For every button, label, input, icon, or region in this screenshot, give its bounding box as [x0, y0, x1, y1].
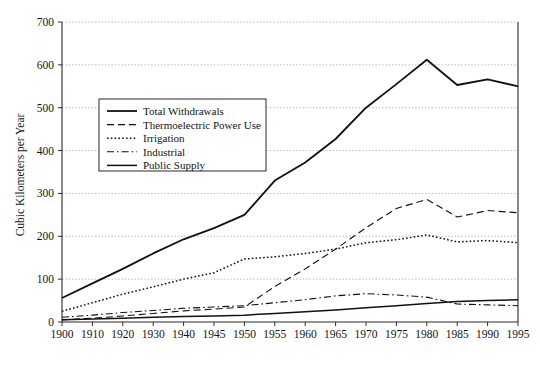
- x-tick-label: 1965: [324, 328, 347, 340]
- chart-container: 0100200300400500600700 19001910192019301…: [0, 0, 540, 365]
- chart-legend: Total WithdrawalsThermoelectric Power Us…: [99, 99, 266, 171]
- y-tick-label: 700: [37, 16, 55, 28]
- line-chart: 0100200300400500600700 19001910192019301…: [0, 0, 540, 365]
- y-tick-label: 600: [37, 59, 55, 71]
- x-tick-label: 1995: [507, 328, 530, 340]
- x-tick-label: 1950: [233, 328, 256, 340]
- y-tick-label: 100: [37, 273, 55, 285]
- x-tick-label: 1990: [476, 328, 499, 340]
- x-axis: [62, 322, 518, 326]
- x-tick-label: 1955: [263, 328, 286, 340]
- series-line-total-withdrawals: [62, 60, 518, 298]
- x-tick-label: 1960: [294, 328, 317, 340]
- x-tick-label: 1930: [142, 328, 165, 340]
- y-tick-label: 300: [37, 187, 55, 199]
- legend-label-irrigation: Irrigation: [143, 132, 185, 144]
- y-axis-title: Cubic Kilometers per Year: [14, 114, 27, 237]
- x-tick-label: 1985: [446, 328, 469, 340]
- legend-label-public-supply: Public Supply: [143, 159, 206, 171]
- x-tick-labels: 1900191019201930194019451950195519601965…: [51, 328, 530, 340]
- x-tick-label: 1900: [51, 328, 74, 340]
- x-tick-label: 1910: [81, 328, 104, 340]
- legend-label-total-withdrawals: Total Withdrawals: [143, 105, 224, 117]
- x-tick-label: 1920: [111, 328, 134, 340]
- legend-label-thermoelectric-power-use: Thermoelectric Power Use: [143, 119, 261, 131]
- x-tick-label: 1945: [203, 328, 226, 340]
- series-line-public-supply: [62, 300, 518, 320]
- y-tick-labels: 0100200300400500600700: [37, 16, 55, 328]
- y-tick-label: 400: [37, 145, 55, 157]
- x-tick-label: 1975: [385, 328, 408, 340]
- y-tick-label: 200: [37, 230, 55, 242]
- y-tick-label: 0: [48, 316, 54, 328]
- x-tick-label: 1970: [355, 328, 378, 340]
- legend-label-industrial: Industrial: [143, 146, 185, 158]
- series-line-irrigation: [62, 235, 518, 311]
- x-tick-label: 1980: [415, 328, 438, 340]
- x-tick-label: 1940: [172, 328, 195, 340]
- series-line-industrial: [62, 294, 518, 318]
- y-axis-title-text: Cubic Kilometers per Year: [14, 114, 27, 237]
- y-tick-label: 500: [37, 102, 55, 114]
